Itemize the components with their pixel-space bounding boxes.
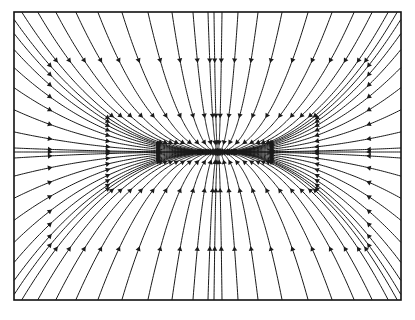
phase-portrait-figure	[0, 0, 415, 320]
streamline-plot	[0, 0, 415, 320]
